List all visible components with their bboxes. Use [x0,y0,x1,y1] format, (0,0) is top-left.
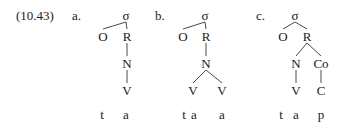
node-n: N [291,57,300,70]
edge-n-v2 [206,70,222,83]
tree-label-a: a. [72,9,81,22]
node-n: N [122,57,131,70]
node-o: O [98,30,107,43]
tree-label-b: b. [155,9,165,22]
node-v1: V [188,84,197,97]
syllable-structure-figure: (10.43) a. σORNVta b. σORNVVtaa c. σORNC… [0,0,347,128]
node-o: O [178,30,187,43]
node-v2: V [217,84,226,97]
edge-r-co [307,43,321,56]
edge-n-v1 [193,70,206,83]
node-n: N [201,57,210,70]
segment: a [191,108,197,121]
tree-label-c: c. [256,9,265,22]
node-sigma: σ [201,9,208,22]
segment: t [100,108,104,121]
example-number: (10.43) [16,9,54,22]
node-sigma: σ [122,9,129,22]
node-v: V [122,84,131,97]
segment: t [279,108,283,121]
segment: a [219,108,225,121]
node-c: C [317,84,326,97]
segment: a [123,108,129,121]
node-r: R [303,30,312,43]
segment: a [293,108,299,121]
edge-r-n [296,43,307,56]
node-r: R [123,30,132,43]
node-v: V [291,84,300,97]
node-sigma: σ [291,9,298,22]
node-o: O [278,30,287,43]
node-co: Co [313,57,328,70]
segment: t [182,108,186,121]
segment: p [318,108,325,121]
node-r: R [202,30,211,43]
